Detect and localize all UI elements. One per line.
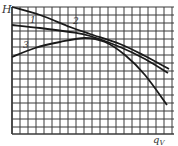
curve-3-label: 3 — [23, 40, 29, 50]
x-axis-label-sub: V — [159, 139, 165, 146]
x-axis-label: qV — [153, 134, 165, 146]
chart-canvas: H qV 1 2 3 — [0, 0, 178, 146]
curve-1 — [12, 25, 168, 73]
grid — [12, 7, 174, 134]
y-axis-label: H — [1, 3, 12, 16]
curve-1-label: 1 — [30, 15, 36, 25]
curve-2-label: 2 — [72, 16, 79, 26]
